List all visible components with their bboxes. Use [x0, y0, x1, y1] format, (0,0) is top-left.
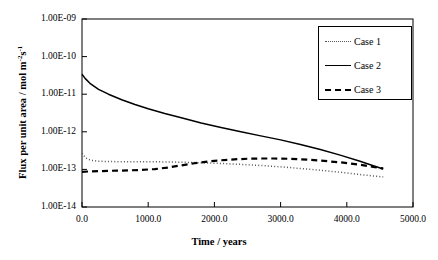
- y-tick-label: 1.00E-13: [20, 163, 76, 173]
- y-tick-label: 1.00E-11: [20, 88, 76, 98]
- x-tick-label: 4000.0: [317, 214, 377, 224]
- legend-label: Case 2: [354, 59, 381, 73]
- x-tick-label: 2000.0: [184, 214, 244, 224]
- x-tick-label: 1000.0: [118, 214, 178, 224]
- legend-label: Case 3: [354, 83, 381, 97]
- x-axis-ticks: [82, 202, 413, 207]
- chart-legend: Case 1 Case 2 Case 3: [318, 26, 412, 100]
- legend-line-sample-dashed-icon: [325, 89, 351, 91]
- series-line-case-1: [82, 153, 383, 177]
- legend-item-case-3: Case 3: [325, 83, 411, 97]
- y-axis-ticks: [82, 19, 87, 207]
- legend-line-sample-dotted-icon: [325, 41, 351, 42]
- series-line-case-3: [82, 158, 383, 171]
- legend-item-case-1: Case 1: [325, 35, 411, 49]
- chart-figure: 1.00E-091.00E-101.00E-111.00E-121.00E-13…: [0, 0, 438, 260]
- x-tick-label: 3000.0: [251, 214, 311, 224]
- y-axis-title: Flux per unit area / mol m-2s-1: [16, 12, 29, 212]
- y-tick-label: 1.00E-10: [20, 51, 76, 61]
- y-tick-label: 1.00E-09: [20, 13, 76, 23]
- y-tick-label: 1.00E-12: [20, 126, 76, 136]
- x-tick-label: 0.0: [52, 214, 112, 224]
- legend-label: Case 1: [354, 35, 381, 49]
- x-tick-label: 5000.0: [383, 214, 438, 224]
- legend-item-case-2: Case 2: [325, 59, 411, 73]
- y-tick-label: 1.00E-14: [20, 201, 76, 211]
- x-axis-title: Time / years: [0, 236, 438, 247]
- legend-line-sample-solid-icon: [325, 65, 351, 66]
